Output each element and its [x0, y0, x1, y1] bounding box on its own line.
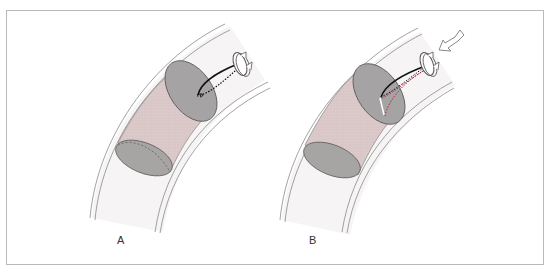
push-arrow-icon: [439, 30, 464, 51]
figure-canvas: [0, 0, 550, 272]
panel-label-a: A: [117, 234, 124, 246]
panel-label-b: B: [309, 234, 316, 246]
panel-a: [90, 24, 270, 233]
panel-b: [280, 28, 464, 235]
